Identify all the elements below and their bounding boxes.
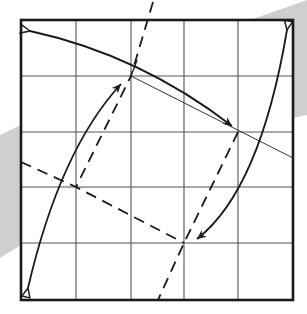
- origami-diagram: [0, 0, 307, 314]
- background-band-left: [0, 125, 21, 258]
